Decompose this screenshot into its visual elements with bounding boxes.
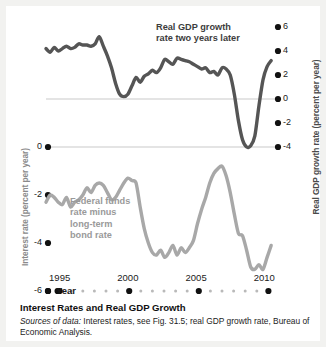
right-axis-tick-label: 2	[283, 69, 303, 79]
right-axis-tick-marks	[275, 24, 281, 150]
x-axis-dot	[265, 288, 271, 294]
right-axis-tick-dot	[275, 144, 281, 150]
x-axis-tick-label: 2010	[244, 272, 284, 283]
chart-plot-area: Interest rate (percent per year) Real GD…	[6, 6, 320, 298]
left-axis-tick-label: -2	[22, 189, 42, 199]
x-axis-tick-label: 1995	[40, 272, 80, 283]
x-axis-dot	[221, 290, 224, 293]
x-axis-dot	[151, 290, 154, 293]
right-axis-tick-dot	[275, 48, 281, 54]
x-axis-dot	[186, 290, 189, 293]
x-axis-tick-label: 2000	[108, 272, 148, 283]
x-axis-dot	[139, 290, 142, 293]
x-axis-dot	[163, 290, 166, 293]
right-axis-tick-label: -4	[283, 141, 303, 151]
x-axis-dot	[93, 290, 96, 293]
left-axis-tick-label: 0	[22, 141, 42, 151]
left-axis-tick-dot	[45, 144, 51, 150]
x-axis-title: Year	[44, 285, 88, 296]
figure-card: Interest rate (percent per year) Real GD…	[6, 6, 320, 341]
x-axis-dot	[196, 288, 202, 294]
caption-source: Sources of data: Interest rates, see Fig…	[20, 316, 312, 337]
right-axis-tick-label: 6	[283, 21, 303, 31]
right-axis-tick-dot	[275, 96, 281, 102]
series-line-real-gdp-growth	[46, 37, 271, 148]
x-axis-dot	[232, 290, 235, 293]
x-axis-dot	[244, 290, 247, 293]
left-axis-tick-label: -6	[22, 285, 42, 295]
chart-canvas	[6, 6, 320, 298]
left-axis-tick-dot	[45, 240, 51, 246]
right-axis-tick-label: 4	[283, 45, 303, 55]
annotation-real-gdp-growth: Real GDP growth rate two years later	[156, 22, 240, 45]
x-axis-dot	[174, 290, 177, 293]
right-axis-tick-label: 0	[283, 93, 303, 103]
x-axis-dot	[116, 290, 119, 293]
right-axis-title: Real GDP growth rate (percent per year)	[311, 42, 321, 232]
right-axis-tick-label: -2	[283, 117, 303, 127]
left-axis-title: Interest rate (percent per year)	[20, 132, 30, 282]
right-axis-tick-dot	[275, 120, 281, 126]
x-axis-dot	[209, 290, 212, 293]
x-axis-tick-label: 2005	[176, 272, 216, 283]
caption-source-label: Sources of data:	[20, 316, 81, 326]
figure-caption: Interest Rates and Real GDP Growth Sourc…	[20, 302, 312, 337]
right-axis-tick-dot	[275, 72, 281, 78]
right-axis-tick-dot	[275, 24, 281, 30]
caption-title: Interest Rates and Real GDP Growth	[20, 302, 312, 313]
left-axis-tick-label: -4	[22, 237, 42, 247]
x-axis-dot	[255, 290, 258, 293]
x-axis-dot	[126, 288, 132, 294]
x-axis-dot	[105, 290, 108, 293]
annotation-federal-funds-rate: Federal funds rate minus long-term bond …	[70, 196, 130, 242]
